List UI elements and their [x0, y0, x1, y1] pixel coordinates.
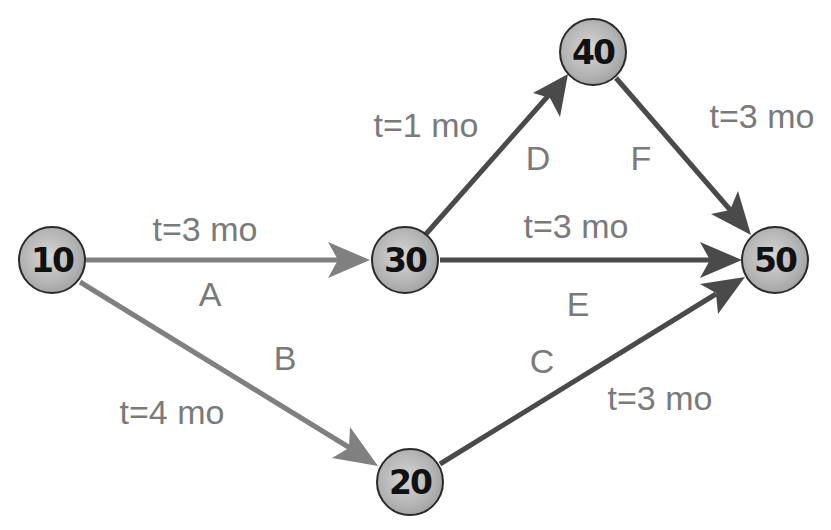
node-30-label: 30: [384, 241, 426, 280]
node-50: 50: [741, 226, 809, 294]
edge-b-activity: B: [274, 341, 297, 375]
edge-f-activity: F: [631, 141, 652, 175]
edge-b-duration: t=4 mo: [120, 395, 225, 429]
edge-d-duration: t=1 mo: [374, 108, 479, 142]
node-20-label: 20: [389, 463, 431, 502]
edge-c-arrow: [440, 277, 745, 464]
node-10: 10: [18, 226, 86, 294]
node-10-label: 10: [31, 241, 73, 280]
edge-e-activity: E: [567, 287, 590, 321]
edge-a-activity: A: [199, 277, 222, 311]
edge-c-duration: t=3 mo: [608, 381, 713, 415]
node-30: 30: [371, 226, 439, 294]
node-40-label: 40: [572, 33, 614, 72]
edge-f-duration: t=3 mo: [710, 99, 815, 133]
edge-c-activity: C: [530, 344, 555, 378]
node-50-label: 50: [754, 241, 796, 280]
edge-e-duration: t=3 mo: [524, 209, 629, 243]
edge-d-activity: D: [526, 141, 551, 175]
node-20: 20: [376, 448, 444, 516]
edge-b-arrow: [80, 282, 378, 466]
edge-e-arrow: [440, 242, 742, 278]
edge-a-duration: t=3 mo: [153, 212, 258, 246]
node-40: 40: [559, 18, 627, 86]
